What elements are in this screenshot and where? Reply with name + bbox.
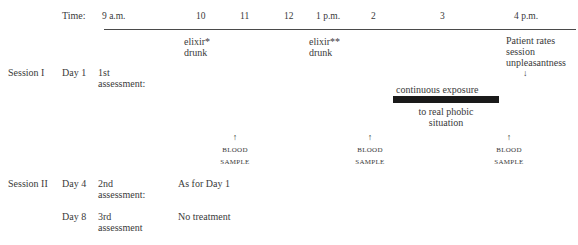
up-arrow-icon: ↑ bbox=[494, 133, 524, 142]
down-arrow-icon: ↓ bbox=[523, 69, 528, 78]
row2-assessment-2: assessment: bbox=[98, 189, 145, 200]
tick-4pm: 4 p.m. bbox=[514, 11, 538, 22]
elixir-2-line1: elixir** bbox=[309, 36, 340, 47]
row2-assessment-1: 2nd bbox=[98, 178, 113, 189]
blood-sample-1-line1: BLOOD bbox=[215, 145, 255, 156]
blood-sample-3-line1: BLOOD bbox=[489, 145, 529, 156]
row1-assessment-2: assessment: bbox=[98, 78, 145, 89]
tick-10: 10 bbox=[196, 11, 206, 22]
row2-session: Session II bbox=[8, 178, 48, 189]
tick-9am: 9 a.m. bbox=[102, 11, 125, 22]
up-arrow-icon: ↑ bbox=[355, 133, 385, 142]
exposure-label-bottom-1: to real phobic bbox=[393, 106, 499, 117]
row3-assessment-1: 3rd bbox=[98, 211, 111, 222]
up-arrow-icon: ↑ bbox=[220, 133, 250, 142]
tick-12: 12 bbox=[284, 11, 294, 22]
blood-sample-3-line2: SAMPLE bbox=[489, 157, 529, 168]
exposure-bar bbox=[393, 96, 499, 103]
timeline-axis bbox=[104, 29, 576, 30]
tick-2: 2 bbox=[371, 11, 376, 22]
row1-assessment-1: 1st bbox=[98, 67, 110, 78]
row3-day: Day 8 bbox=[62, 211, 86, 222]
time-label: Time: bbox=[62, 10, 86, 21]
blood-sample-2-line1: BLOOD bbox=[350, 145, 390, 156]
tick-11: 11 bbox=[240, 11, 249, 22]
blood-sample-2-line2: SAMPLE bbox=[350, 157, 390, 168]
elixir-1-line1: elixir* bbox=[184, 36, 210, 47]
elixir-2-line2: drunk bbox=[309, 47, 332, 58]
blood-sample-1-line2: SAMPLE bbox=[215, 157, 255, 168]
tick-1pm: 1 p.m. bbox=[316, 11, 340, 22]
exposure-label-top: continuous exposure bbox=[396, 84, 479, 95]
rating-line2: session bbox=[506, 46, 535, 57]
row3-assessment-2: assessment bbox=[98, 222, 142, 233]
row1-day: Day 1 bbox=[62, 67, 86, 78]
exposure-label-bottom-2: situation bbox=[393, 117, 499, 128]
tick-3: 3 bbox=[440, 11, 445, 22]
rating-line3: unpleasantness bbox=[506, 57, 566, 68]
rating-line1: Patient rates bbox=[506, 35, 555, 46]
row3-treatment: No treatment bbox=[178, 211, 230, 222]
row2-day: Day 4 bbox=[62, 178, 86, 189]
row2-treatment: As for Day 1 bbox=[178, 178, 230, 189]
row1-session: Session I bbox=[8, 67, 44, 78]
elixir-1-line2: drunk bbox=[184, 47, 207, 58]
